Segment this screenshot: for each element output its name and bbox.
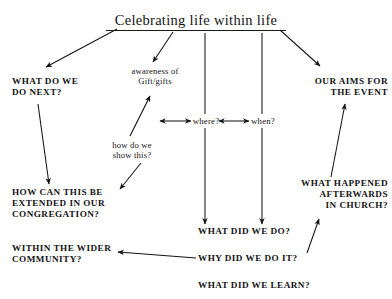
node-what-did-we-do: WHAT DID WE DO? — [198, 226, 318, 237]
node-how-can-this-be-extended: HOW CAN THIS BE EXTENDED IN OUR CONGREGA… — [12, 187, 142, 220]
node-title: Celebrating life within life — [106, 12, 286, 31]
node-where: where? — [192, 116, 220, 126]
node-how-do-we-show-this: how do we show this? — [93, 140, 171, 160]
diagram-canvas: Celebrating life within life WHAT DO WE … — [0, 0, 392, 299]
node-awareness-of-gifts: awareness of Gift/gifts — [113, 66, 197, 86]
node-what-did-we-learn: WHAT DID WE LEARN? — [198, 280, 338, 291]
edge-howshow-to-extended — [120, 163, 141, 189]
edge-title-to-awareness — [153, 32, 173, 62]
edge-title-to-aims — [280, 30, 320, 66]
edge-afterwards-to-aims — [331, 104, 345, 177]
edge-title-to-next — [46, 29, 117, 67]
node-within-the-wider-community: WITHIN THE WIDER COMMUNITY? — [12, 243, 132, 265]
node-our-aims-for-the-event: OUR AIMS FOR THE EVENT — [292, 76, 388, 98]
node-why-did-we-do-it: WHY DID WE DO IT? — [198, 253, 318, 264]
edge-next-to-extended — [38, 104, 49, 184]
node-when: when? — [249, 116, 277, 126]
node-what-do-we-do-next: WHAT DO WE DO NEXT? — [12, 76, 112, 98]
node-what-happened-afterwards: WHAT HAPPENED AFTERWARDS IN CHURCH? — [272, 178, 388, 211]
edge-howshow-to-awareness — [130, 96, 150, 136]
